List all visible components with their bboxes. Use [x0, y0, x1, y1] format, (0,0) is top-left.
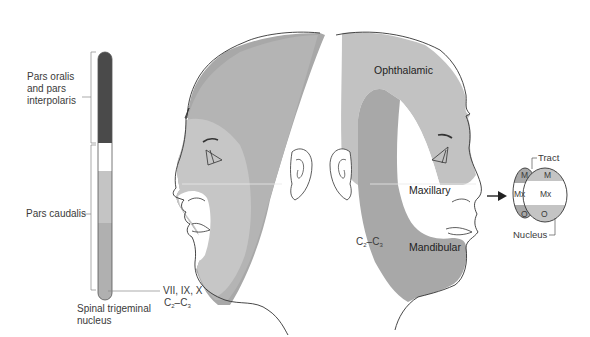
c-dash: –C	[367, 236, 380, 247]
nucleus-label: Nucleus	[513, 229, 547, 241]
trigeminal-diagram: Pars oralis and pars interpolaris Pars c…	[0, 0, 590, 337]
nucleus-column	[82, 52, 160, 300]
pars-oralis-line-1: Pars oralis	[27, 71, 76, 83]
m-right-label: M	[544, 169, 551, 181]
pars-caudalis-upper	[98, 171, 112, 223]
caudalis-bracket	[91, 145, 96, 290]
ophthalamic-label: Ophthalamic	[374, 64, 433, 76]
mx-left-label: Mx	[514, 188, 525, 200]
diagram-svg	[0, 0, 590, 337]
title-line-1: Spinal trigeminal	[77, 303, 151, 315]
arrow-head-icon	[498, 191, 507, 201]
pars-oralis-label: Pars oralis and pars interpolaris	[27, 71, 76, 107]
pars-oralis-line-3: interpolaris	[27, 95, 76, 107]
pars-oralis-line-2: and pars	[27, 83, 76, 95]
spinal-trigeminal-nucleus-title: Spinal trigeminal nucleus	[77, 303, 151, 327]
right-face	[330, 32, 507, 330]
nerves-label: VII, IX, X	[163, 285, 202, 297]
oralis-bracket	[91, 52, 96, 143]
mx-right-label: Mx	[540, 188, 551, 200]
pars-oralis-segment	[98, 52, 112, 143]
cervical-label-left: C2–C3	[164, 297, 191, 312]
c-sub-2: 3	[187, 303, 190, 309]
o-right-label: O	[541, 208, 548, 220]
maxillary-label: Maxillary	[409, 184, 450, 196]
pars-interpolaris-gap	[98, 143, 112, 171]
mandibular-label: Mandibular	[409, 241, 461, 253]
c-sub-2: 3	[379, 242, 382, 248]
c-dash: –C	[175, 297, 188, 308]
tract-label: Tract	[538, 152, 559, 164]
pars-caudalis-lower	[98, 223, 112, 300]
pars-caudalis-label: Pars caudalis	[26, 208, 86, 220]
title-line-2: nucleus	[77, 315, 151, 327]
cervical-label-right: C2–C3	[356, 236, 383, 251]
m-left-label: M	[521, 169, 528, 181]
o-left-label: O	[521, 208, 528, 220]
